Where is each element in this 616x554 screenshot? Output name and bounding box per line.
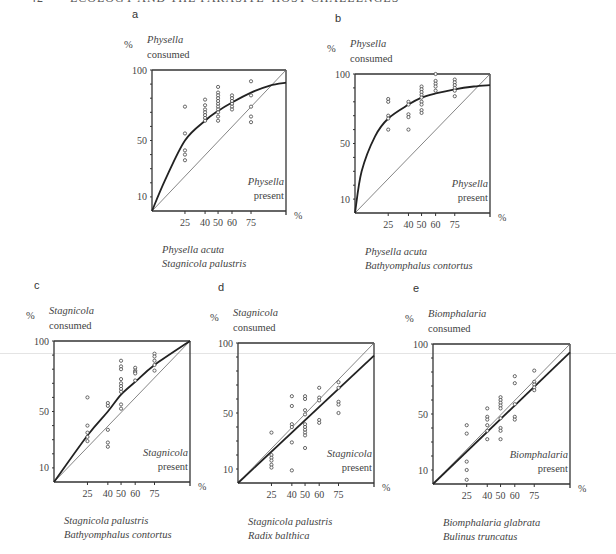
y-tick-label: 50 [418,409,428,420]
data-point [499,407,502,410]
data-point [465,478,468,481]
y-tick-label: 100 [413,339,428,350]
data-point [465,424,468,427]
x-tick-label: 40 [482,490,492,501]
data-point [513,375,516,378]
figure-panel-e: e%Biomphalariaconsumed10050102540506075B… [0,0,616,554]
y-axis-label: consumed [428,323,471,334]
panel-letter: e [413,282,419,294]
x-species-label: Biomphalaria [510,449,568,460]
x-axis-label: present [538,463,568,474]
data-point [486,407,489,410]
caption-species-1: Biomphalaria glabrata [443,517,540,528]
data-point [513,403,516,406]
x-tick-label: 75 [529,490,539,501]
data-point [499,417,502,420]
x-tick-label: 50 [496,490,506,501]
x-tick-label: 25 [462,490,472,501]
y-tick-label: 10 [418,465,428,476]
data-point [465,432,468,435]
data-point [533,369,536,372]
data-point [513,418,516,421]
x-unit-label: % [578,483,586,494]
data-point [465,468,468,471]
data-point [465,460,468,463]
data-point [486,418,489,421]
data-point [499,429,502,432]
data-point [486,429,489,432]
data-point [533,389,536,392]
caption-species-2: Bulinus truncatus [443,531,517,542]
x-tick-label: 60 [510,490,520,501]
y-unit-label: % [405,313,414,324]
data-point [486,438,489,441]
data-point [513,382,516,385]
y-species-label: Biomphalaria [428,308,486,319]
data-point [499,438,502,441]
data-point [486,424,489,427]
